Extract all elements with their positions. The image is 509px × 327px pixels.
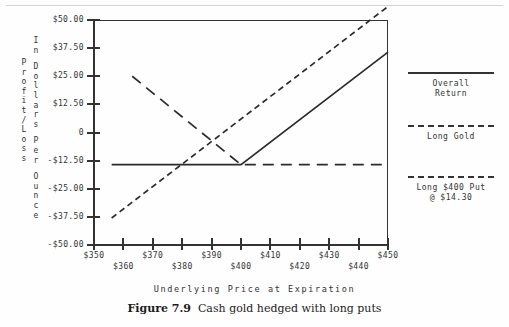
x-axis-tick [93,238,95,250]
series-lines [94,20,388,245]
x-axis-tick-label: $440 [348,263,369,271]
x-axis-tick-label: $420 [289,263,310,271]
vertical-title-char: O [31,172,41,182]
plot-area [94,20,388,245]
y-axis-tick-label: -$12.50 [28,157,84,165]
x-axis-tick [299,238,301,250]
vertical-title-char: D [31,62,41,72]
vertical-title-char: P [31,136,41,146]
legend-item-overall-return: Overall Return [396,72,506,99]
vertical-title-char: f [19,87,29,97]
x-axis-tick [328,238,330,250]
vertical-title-word-gap [31,55,41,62]
legend-label-overall-return-line1: Overall [396,79,506,89]
x-axis-tick-label: $390 [201,252,222,260]
vertical-title-word-gap [31,165,41,172]
figure-number: Figure 7.9 [128,302,191,315]
vertical-title-char: P [19,58,29,68]
legend-swatch-short-dash-line-icon [408,125,494,127]
x-axis-tick-label: $400 [231,263,252,271]
legend-label-overall-return-line2: Return [396,89,506,99]
x-axis-tick-label: $370 [142,252,163,260]
y-axis-tick-label-wrap: $25.00 [26,72,84,80]
legend-label-long-put-line2: @ $14.30 [396,193,506,203]
vertical-title-char: / [19,116,29,126]
x-axis-caption: Underlying Price at Expiration [0,284,509,294]
y-axis-tick-label-wrap: -$37.50 [26,213,84,221]
page-rule-divider [6,5,503,6]
figure-caption-text: Cash gold hedged with long puts [198,302,382,315]
series-line [112,52,388,165]
vertical-title-char: c [31,201,41,211]
y-axis-tick-label: $37.50 [28,44,84,52]
vertical-title-char: r [31,110,41,120]
series-line [112,7,388,219]
x-axis-tick-label: $410 [260,252,281,260]
series-line [132,76,388,164]
y-axis-tick-label: $12.50 [28,100,84,108]
vertical-title-char: l [31,91,41,101]
legend-item-long-put: Long $400 Put @ $14.30 [396,176,506,203]
x-axis-tick [240,238,242,250]
x-axis-tick [181,238,183,250]
x-axis-tick-label: $360 [113,263,134,271]
y-axis-tick-label: $25.00 [28,72,84,80]
x-axis-tick [269,238,271,250]
x-axis-tick [152,238,154,250]
y-axis-tick-label: -$50.00 [28,241,84,249]
vertical-title-char: e [31,146,41,156]
x-axis-tick-label: $450 [378,252,399,260]
y-axis-tick-label-wrap: -$12.50 [26,157,84,165]
vertical-title-char: n [31,191,41,201]
x-axis-tick [122,238,124,250]
y-axis-tick-label: $50.00 [28,16,84,24]
y-axis-tick-label: 0 [28,129,84,137]
y-axis-tick-label-wrap: $37.50 [26,44,84,52]
y-axis-tick-label-wrap: -$25.00 [26,185,84,193]
vertical-title-char: l [31,81,41,91]
x-axis-tick [358,238,360,250]
y-axis-tick-label-wrap: $12.50 [26,100,84,108]
figure-caption: Figure 7.9Cash gold hedged with long put… [0,302,509,315]
y-axis-tick-label-wrap: 0 [26,129,84,137]
x-axis-tick-label: $380 [172,263,193,271]
y-axis-tick-label: -$25.00 [28,185,84,193]
vertical-title-char: s [19,144,29,154]
legend-label-long-put-line1: Long $400 Put [396,183,506,193]
x-axis-tick [387,238,389,250]
legend-item-long-gold: Long Gold [396,125,506,142]
y-axis-tick-label: -$37.50 [28,213,84,221]
figure-page: Profit/Loss InDollarsPerOunce $50.00$37.… [0,0,509,327]
y-axis-tick-label-wrap: $50.00 [26,16,84,24]
x-axis-tick-label: $350 [84,252,105,260]
legend-swatch-solid-line-icon [408,72,494,74]
y-axis-tick-label-wrap: -$50.00 [26,241,84,249]
legend-swatch-long-dash-line-icon [408,176,494,178]
legend-label-long-gold-line1: Long Gold [396,132,506,142]
x-axis-tick [211,238,213,250]
x-axis-tick-label: $430 [319,252,340,260]
